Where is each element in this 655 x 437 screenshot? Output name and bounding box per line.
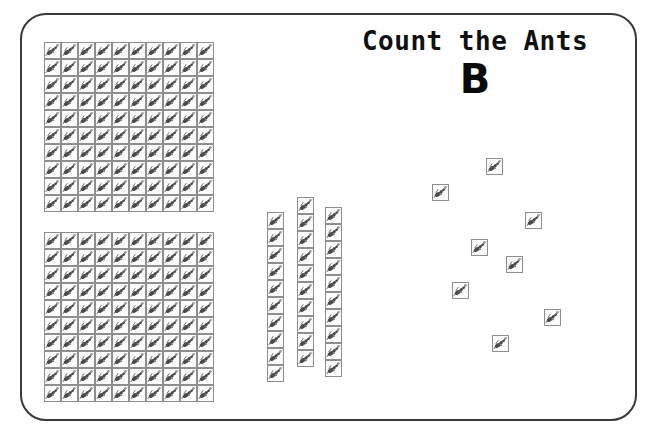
ant-icon [146,110,163,127]
ant-icon [61,249,78,266]
ant-icon [325,326,342,343]
ant-icon [44,195,61,212]
ant-icon [61,232,78,249]
ant-icon [44,93,61,110]
ant-icon [95,178,112,195]
ant-icon [163,76,180,93]
ant-icon [61,59,78,76]
ant-icon [44,300,61,317]
worksheet-page: Count the Ants B [0,0,655,437]
ant-icon [78,266,95,283]
ant-icon [129,232,146,249]
ant-icon [112,232,129,249]
ant-icon [267,280,284,297]
ant-icon [61,127,78,144]
ant-icon [95,110,112,127]
ant-icon [163,334,180,351]
ant-icon [197,232,214,249]
ant-icon [129,127,146,144]
ant-icon [267,246,284,263]
ant-icon [61,144,78,161]
ant-icon [129,161,146,178]
ant-icon [129,144,146,161]
ant-icon [112,283,129,300]
ant-icon [267,263,284,280]
ant-icon [44,232,61,249]
ant-icon [180,334,197,351]
ant-icon [197,334,214,351]
ant-icon [61,178,78,195]
ant-icon [44,178,61,195]
ant-icon [95,266,112,283]
ant-icon [163,351,180,368]
ant-icon [163,249,180,266]
ant-icon [44,59,61,76]
ant-icon [146,334,163,351]
ant-icon [180,178,197,195]
ant-icon [112,195,129,212]
ant-icon [163,93,180,110]
ant-icon [95,368,112,385]
ant-icon [180,59,197,76]
ant-icon [95,144,112,161]
ant-icon [112,249,129,266]
ant-icon [61,368,78,385]
ant-icon [180,93,197,110]
ant-icon [146,368,163,385]
ant-icon [197,42,214,59]
ant-icon [180,110,197,127]
ant-icon [267,314,284,331]
ant-icon [146,351,163,368]
ant-icon [129,351,146,368]
ant-icon [267,365,284,382]
ant-icon [112,334,129,351]
ant-icon [146,59,163,76]
ant-icon [146,385,163,402]
ant-icon [325,292,342,309]
ant-icon [61,300,78,317]
ant-icon [163,144,180,161]
ant-icon [163,127,180,144]
ant-icon [267,348,284,365]
ant-icon [163,161,180,178]
ant-icon [129,334,146,351]
ant-icon [146,93,163,110]
ant-icon [129,42,146,59]
ant-icon [197,110,214,127]
ant-icon [112,76,129,93]
ant-icon [146,249,163,266]
ant-icon [61,334,78,351]
ant-icon [180,283,197,300]
ant-icon [78,93,95,110]
ant-icon [95,283,112,300]
ant-icon [78,178,95,195]
ant-icon [112,161,129,178]
ant-icon [325,343,342,360]
ant-icon [325,258,342,275]
ant-icon [146,317,163,334]
ant-icon [146,266,163,283]
ant-icon [129,195,146,212]
ant-icon [78,127,95,144]
ant-icon [112,300,129,317]
ant-icon [44,385,61,402]
ant-icon [197,161,214,178]
ant-icon [197,300,214,317]
ant-icon [112,93,129,110]
ant-icon [197,144,214,161]
ant-icon [197,351,214,368]
ant-icon [112,127,129,144]
ant-icon [180,195,197,212]
ant-icon [129,368,146,385]
ant-icon [452,282,469,299]
ant-icon [180,42,197,59]
ant-icon [180,161,197,178]
ant-icon [197,266,214,283]
ant-icon [267,331,284,348]
ant-icon [78,144,95,161]
ant-icon [112,59,129,76]
ant-icon [112,317,129,334]
ant-icon [129,249,146,266]
ant-icon [95,300,112,317]
ant-icon [146,144,163,161]
